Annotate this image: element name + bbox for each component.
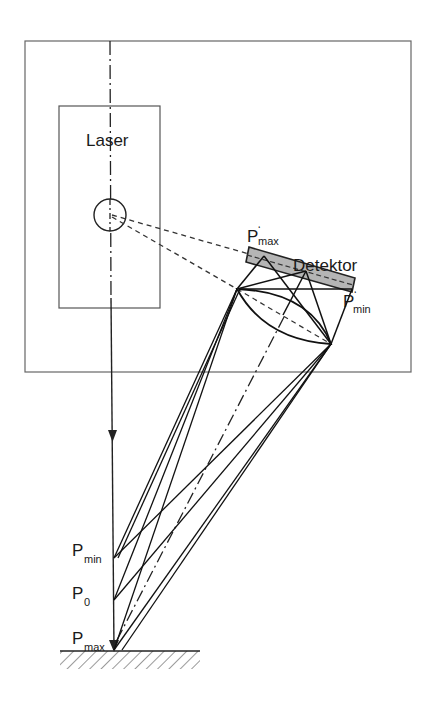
p-min-label: P min [72,541,102,565]
p-max-prime-label: P ‘ max [247,224,279,247]
svg-text:P: P [72,584,83,603]
surface-to-lens-rays [114,289,331,650]
dashed-line-to-lens [112,217,237,289]
svg-text:P: P [72,541,83,560]
svg-text:‘: ‘ [354,289,356,301]
svg-text:min: min [353,303,371,315]
svg-text:0: 0 [84,596,90,608]
p-0-label: P 0 [72,584,90,608]
svg-text:P: P [72,629,83,648]
sensor-housing [25,41,411,372]
svg-text:min: min [84,553,102,565]
svg-text:max: max [258,235,279,247]
dashed-line-to-pmax [112,215,249,254]
receiver-axis-dashdot [116,317,284,642]
laser-label: Laser [86,131,129,150]
svg-text:P: P [247,227,258,246]
laser-beam [111,298,114,650]
beam-arrow-icon [108,430,117,442]
p-max-label: P max [72,629,105,653]
laser-axis-dashdot [110,41,111,298]
measurement-surface [60,651,200,669]
triangulation-diagram: Laser Detektor P ‘ max P ‘ min [0,0,433,703]
